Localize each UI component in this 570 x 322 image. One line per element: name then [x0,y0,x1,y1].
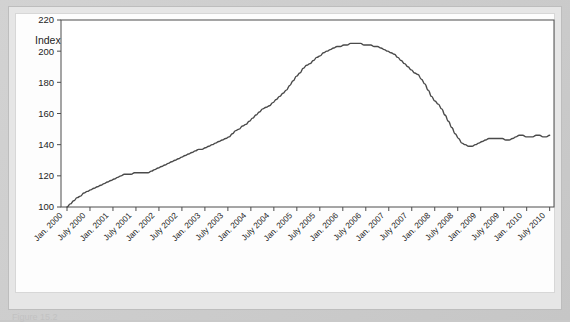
plot-area: 100120140160180200220Jan. 2000July 2000J… [16,14,554,292]
chart-card: Index (January 2000 = 100) 1001201401601… [16,14,554,292]
y-axis-tick-label: 100 [38,201,54,212]
y-axis-tick-label: 200 [38,46,54,57]
y-axis-tick-label: 160 [38,108,54,119]
figure-inner-frame: Index (January 2000 = 100) 1001201401601… [15,13,555,293]
y-axis-tick-label: 120 [38,170,54,181]
y-axis-tick-label: 180 [38,77,54,88]
figure-outer-frame: Index (January 2000 = 100) 1001201401601… [8,6,562,310]
y-axis-tick-label: 140 [38,139,54,150]
y-axis-tick-label: 220 [38,14,54,25]
line-chart-svg: 100120140160180200220Jan. 2000July 2000J… [16,14,562,302]
figure-caption: Figure 15.2 [12,312,58,322]
